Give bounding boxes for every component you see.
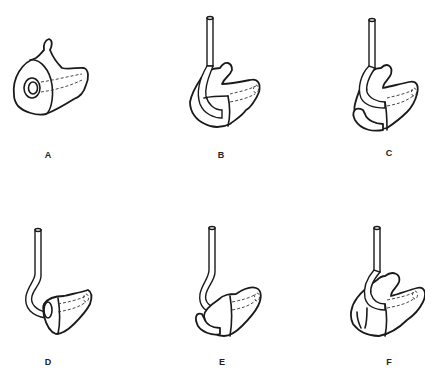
panel-label-b: B xyxy=(211,150,231,160)
earmold-b-drawing xyxy=(150,0,280,170)
panel-label-a: A xyxy=(38,150,58,160)
panel-label-c: C xyxy=(379,148,399,158)
earmold-c-drawing xyxy=(295,0,425,170)
panel-a: A xyxy=(0,0,130,190)
panel-f: F xyxy=(295,200,425,389)
earmold-e-drawing xyxy=(150,200,280,370)
panel-e: E xyxy=(150,200,280,389)
panel-label-f: F xyxy=(379,357,399,367)
panel-label-e: E xyxy=(212,357,232,367)
panel-b: B xyxy=(150,0,280,190)
panel-c: C xyxy=(295,0,425,190)
panel-label-d: D xyxy=(38,357,58,367)
earmold-d-drawing xyxy=(0,200,130,370)
panel-d: D xyxy=(0,200,130,389)
earmold-a-drawing xyxy=(0,0,130,170)
earmold-f-drawing xyxy=(295,200,425,370)
